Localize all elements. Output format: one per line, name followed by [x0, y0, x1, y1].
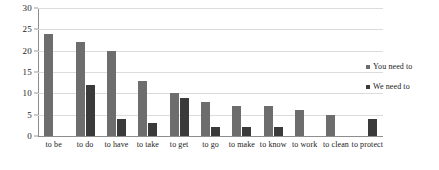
x-tick-label: to have [104, 140, 128, 149]
y-tick-label: 10 [23, 89, 32, 98]
x-tick-label: to protect [352, 140, 383, 149]
bar-group [101, 8, 132, 136]
bar [295, 110, 304, 136]
bar [368, 119, 377, 136]
x-tick-label: to make [229, 140, 255, 149]
legend-swatch-icon [366, 85, 370, 89]
bar-group [289, 8, 320, 136]
y-tick-label: 20 [23, 46, 32, 55]
y-axis: 051015202530 [0, 0, 38, 170]
x-tick-label: to take [137, 140, 159, 149]
bar-chart: 051015202530 to beto doto haveto taketo … [0, 0, 439, 170]
bar-group [163, 8, 194, 136]
bar [138, 81, 147, 136]
axis-baseline [38, 136, 383, 137]
bar-group [226, 8, 257, 136]
bar-group [132, 8, 163, 136]
legend-swatch-icon [366, 65, 370, 69]
legend-label: You need to [373, 63, 412, 71]
bar-group [69, 8, 100, 136]
y-tick-label: 0 [27, 132, 32, 141]
x-tick-label: to know [260, 140, 287, 149]
legend-entry[interactable]: We need to [366, 82, 438, 91]
bar [242, 127, 251, 136]
bar [44, 34, 53, 136]
x-tick-label: to go [202, 140, 219, 149]
bar [148, 123, 157, 136]
x-tick-label: to be [46, 140, 62, 149]
bar [107, 51, 116, 136]
bar-group [258, 8, 289, 136]
x-tick-label: to do [77, 140, 94, 149]
bar [232, 106, 241, 136]
bar-group [195, 8, 226, 136]
chart-legend: You need toWe need to [366, 62, 438, 102]
bar [76, 42, 85, 136]
bar [326, 115, 335, 136]
plot-area [38, 8, 383, 136]
y-tick-label: 25 [23, 25, 32, 34]
x-tick-label: to get [170, 140, 189, 149]
bar [180, 98, 189, 136]
bar [274, 127, 283, 136]
legend-label: We need to [373, 83, 410, 91]
x-tick-label: to clean [323, 140, 349, 149]
bar [211, 127, 220, 136]
bar [264, 106, 273, 136]
x-tick-label: to work [292, 140, 317, 149]
bar-group [38, 8, 69, 136]
legend-entry[interactable]: You need to [366, 62, 438, 71]
y-tick-label: 15 [23, 68, 32, 77]
bar [117, 119, 126, 136]
bar-group [320, 8, 351, 136]
x-axis-labels: to beto doto haveto taketo getto goto ma… [38, 138, 383, 162]
bars-layer [38, 8, 383, 136]
bar [170, 93, 179, 136]
y-tick-label: 5 [27, 110, 32, 119]
y-tick-label: 30 [23, 4, 32, 13]
bar [86, 85, 95, 136]
bar [201, 102, 210, 136]
